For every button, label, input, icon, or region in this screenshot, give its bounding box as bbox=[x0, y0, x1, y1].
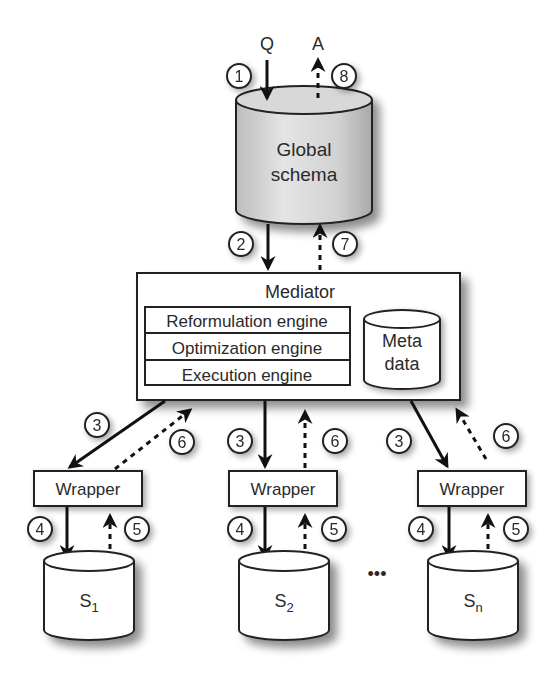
step-5-marker-n: 5 bbox=[504, 517, 528, 541]
svg-text:4: 4 bbox=[236, 521, 245, 538]
svg-text:5: 5 bbox=[133, 521, 142, 538]
step-4-marker-n: 4 bbox=[409, 517, 433, 541]
step-4-marker-2: 4 bbox=[228, 517, 252, 541]
optimization-engine: Optimization engine bbox=[172, 339, 322, 358]
step-3-marker-1: 3 bbox=[85, 413, 109, 437]
arrow-wrappern-to-mediator-icon bbox=[457, 410, 486, 459]
step-5-marker-2: 5 bbox=[322, 517, 346, 541]
step-7-marker: 7 bbox=[333, 232, 357, 256]
arrow-mediator-to-wrappern-icon bbox=[411, 401, 447, 466]
wrapper-label-2: Wrapper bbox=[251, 480, 316, 499]
execution-engine: Execution engine bbox=[182, 366, 312, 385]
step-6-marker-n: 6 bbox=[494, 424, 518, 448]
svg-text:1: 1 bbox=[235, 68, 244, 85]
svg-text:5: 5 bbox=[512, 521, 521, 538]
step-6-marker-1: 6 bbox=[170, 430, 194, 454]
step-8-marker: 8 bbox=[332, 64, 356, 88]
svg-text:6: 6 bbox=[331, 433, 340, 450]
svg-text:8: 8 bbox=[340, 68, 349, 85]
step-5-marker-1: 5 bbox=[125, 517, 149, 541]
step-1-marker: 1 bbox=[227, 64, 251, 88]
svg-text:3: 3 bbox=[395, 433, 404, 450]
query-label: Q bbox=[260, 34, 274, 54]
wrapper-label-1: Wrapper bbox=[56, 480, 121, 499]
mediator-architecture-diagram: Global schema Q A Mediator Reformulation… bbox=[0, 0, 560, 682]
wrapper-label-n: Wrapper bbox=[440, 480, 505, 499]
step-2-marker: 2 bbox=[229, 232, 253, 256]
answer-label: A bbox=[312, 34, 324, 54]
metadata-label-line1: Meta bbox=[382, 331, 423, 351]
svg-text:7: 7 bbox=[341, 236, 350, 253]
more-sources-ellipsis: ••• bbox=[368, 564, 387, 584]
step-6-marker-2: 6 bbox=[323, 429, 347, 453]
metadata-label-line2: data bbox=[384, 354, 420, 374]
global-schema-label-line2: schema bbox=[271, 164, 338, 185]
svg-text:3: 3 bbox=[93, 417, 102, 434]
svg-text:4: 4 bbox=[36, 521, 45, 538]
step-4-marker-1: 4 bbox=[28, 517, 52, 541]
global-schema-label-line1: Global bbox=[277, 139, 332, 160]
mediator-title: Mediator bbox=[265, 282, 335, 302]
svg-text:3: 3 bbox=[236, 433, 245, 450]
step-3-marker-n: 3 bbox=[387, 429, 411, 453]
svg-text:4: 4 bbox=[417, 521, 426, 538]
svg-text:6: 6 bbox=[502, 428, 511, 445]
svg-text:2: 2 bbox=[237, 236, 246, 253]
svg-text:5: 5 bbox=[330, 521, 339, 538]
step-3-marker-2: 3 bbox=[228, 429, 252, 453]
reformulation-engine: Reformulation engine bbox=[166, 312, 328, 331]
svg-text:6: 6 bbox=[178, 434, 187, 451]
arrow-mediator-to-wrapper1-icon bbox=[70, 401, 165, 467]
